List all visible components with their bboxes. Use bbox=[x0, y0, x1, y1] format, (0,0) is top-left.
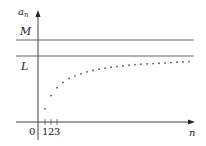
y-axis-arrow-icon bbox=[36, 10, 41, 17]
sequence-point bbox=[164, 62, 166, 64]
sequence-point bbox=[170, 62, 172, 64]
sequence-point bbox=[140, 63, 142, 65]
sequence-point bbox=[110, 66, 112, 68]
sequence-point bbox=[188, 61, 190, 63]
sequence-point bbox=[86, 71, 88, 73]
origin-label: 0 bbox=[29, 126, 35, 137]
y-axis-label: an bbox=[18, 6, 29, 19]
sequence-diagram: an M L 0 1 2 3 n bbox=[0, 0, 206, 146]
sequence-point bbox=[62, 82, 64, 84]
label-L: L bbox=[20, 60, 28, 73]
sequence-point bbox=[116, 66, 118, 68]
sequence-point bbox=[158, 62, 160, 64]
sequence-point bbox=[44, 108, 46, 110]
sequence-point bbox=[152, 63, 154, 65]
sequence-point bbox=[122, 65, 124, 67]
sequence-point bbox=[104, 67, 106, 69]
tick-label-3: 3 bbox=[54, 126, 60, 137]
sequence-point bbox=[92, 70, 94, 72]
sequence-point bbox=[98, 68, 100, 70]
sequence-points bbox=[44, 61, 190, 110]
label-M: M bbox=[19, 25, 32, 38]
sequence-point bbox=[74, 75, 76, 77]
sequence-point bbox=[182, 61, 184, 63]
sequence-point bbox=[68, 78, 70, 80]
x-axis-label: n bbox=[189, 127, 195, 138]
sequence-point bbox=[128, 64, 130, 66]
sequence-point bbox=[146, 63, 148, 65]
sequence-point bbox=[134, 64, 136, 66]
sequence-point bbox=[80, 73, 82, 75]
sequence-point bbox=[50, 95, 52, 97]
sequence-point bbox=[56, 87, 58, 89]
x-axis-arrow-icon bbox=[188, 120, 195, 125]
sequence-point bbox=[176, 61, 178, 63]
